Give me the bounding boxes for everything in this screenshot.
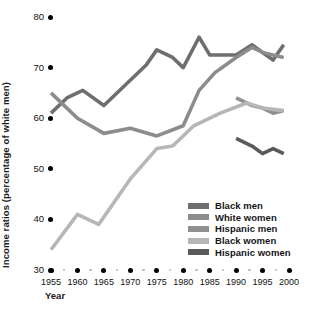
legend-item: Hispanic men <box>188 223 313 235</box>
x-tick-label: 1995 <box>249 277 277 287</box>
x-tick-label: 1960 <box>63 277 91 287</box>
x-tick-label: 1980 <box>169 277 197 287</box>
y-tick-label: 60 <box>22 112 44 123</box>
x-minor-tick-dot <box>142 269 145 272</box>
legend-item: White women <box>188 212 313 224</box>
legend-label: White women <box>215 212 277 223</box>
legend-label: Hispanic men <box>215 223 277 234</box>
chart-legend: Black menWhite womenHispanic menBlack wo… <box>188 200 313 258</box>
x-tick-dot <box>287 268 292 273</box>
x-tick-label: 1970 <box>116 277 144 287</box>
x-minor-tick-dot <box>195 269 198 272</box>
legend-item: Black men <box>188 200 313 212</box>
x-tick-label: 1955 <box>37 277 65 287</box>
y-tick-label: 70 <box>22 62 44 73</box>
legend-swatch-icon <box>188 214 209 220</box>
chart-figure: Income ratios (percentage of white men) … <box>0 0 313 313</box>
y-tick-dot <box>48 217 53 222</box>
y-tick-label: 30 <box>22 264 44 275</box>
series-line-hispanic-women <box>236 138 284 153</box>
x-tick-dot <box>207 268 212 273</box>
x-tick-dot <box>101 268 106 273</box>
x-tick-label: 2000 <box>275 277 303 287</box>
x-tick-dot <box>49 268 54 273</box>
legend-label: Black women <box>215 235 276 246</box>
x-tick-dot <box>260 268 265 273</box>
y-tick-dot <box>48 116 53 121</box>
y-tick-label: 50 <box>22 163 44 174</box>
x-tick-label: 1990 <box>222 277 250 287</box>
legend-swatch-icon <box>188 249 209 255</box>
legend-label: Hispanic women <box>215 247 291 258</box>
legend-swatch-icon <box>188 238 209 244</box>
x-axis-title: Year <box>45 290 65 301</box>
x-minor-tick-dot <box>248 269 251 272</box>
y-tick-label: 80 <box>22 11 44 22</box>
x-tick-label: 1985 <box>196 277 224 287</box>
plot-area <box>0 0 313 313</box>
legend-item: Hispanic women <box>188 246 313 258</box>
legend-swatch-icon <box>188 226 209 232</box>
x-tick-dot <box>154 268 159 273</box>
x-tick-dot <box>234 268 239 273</box>
legend-swatch-icon <box>188 203 209 209</box>
x-tick-dot <box>128 268 133 273</box>
x-tick-label: 1975 <box>143 277 171 287</box>
y-tick-dot <box>48 15 53 20</box>
x-tick-label: 1965 <box>90 277 118 287</box>
y-tick-label: 40 <box>22 213 44 224</box>
x-tick-dot <box>181 268 186 273</box>
legend-label: Black men <box>215 200 263 211</box>
legend-item: Black women <box>188 235 313 247</box>
x-tick-dot <box>75 268 80 273</box>
